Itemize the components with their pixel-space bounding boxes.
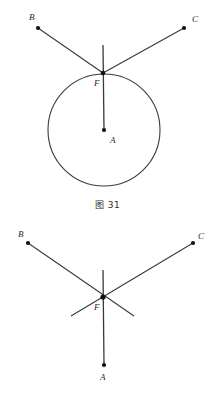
figure-32: A B C F 图 32 (0, 220, 215, 406)
point-label-b: B (29, 12, 35, 22)
segment-vertical-af (103, 45, 104, 130)
segment-vertical-af (103, 270, 104, 365)
point-label-a: A (109, 135, 116, 145)
point-c-dot (182, 26, 186, 30)
segment-c-through-f (71, 243, 193, 316)
figure-32-diagram: A B C F (0, 220, 215, 386)
segment-b-through-f (28, 243, 134, 316)
segment-fb (38, 28, 103, 73)
point-b-dot (36, 26, 40, 30)
figure-31: A B C F 图 31 (0, 0, 215, 220)
figure-31-diagram: A B C F (0, 0, 215, 198)
point-label-f: F (93, 302, 100, 312)
point-label-c: C (198, 231, 205, 241)
point-f-dot (100, 294, 105, 299)
segment-fc (103, 28, 184, 73)
point-label-b: B (18, 229, 24, 239)
point-a-dot (102, 363, 106, 367)
figure-31-caption: 图 31 (0, 198, 215, 211)
point-b-dot (26, 241, 30, 245)
point-c-dot (191, 241, 195, 245)
point-a-dot (102, 128, 106, 132)
point-label-f: F (93, 78, 100, 88)
point-f-dot (101, 71, 106, 76)
point-label-c: C (192, 14, 199, 24)
point-label-a: A (99, 372, 106, 382)
